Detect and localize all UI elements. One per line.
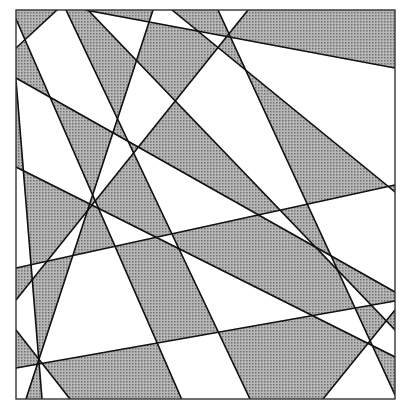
shaded-region xyxy=(138,101,280,215)
shaded-region xyxy=(16,40,50,98)
diagram-canvas xyxy=(0,0,415,418)
shaded-region xyxy=(16,10,57,40)
shaded-region xyxy=(66,10,137,119)
shaded-region xyxy=(355,305,386,341)
shaded-region xyxy=(246,70,389,204)
shaded-region xyxy=(137,22,218,101)
shaded-region xyxy=(229,10,395,68)
shaded-region xyxy=(16,330,39,368)
shaded-region xyxy=(50,97,113,195)
shaded-regions xyxy=(16,10,395,399)
shaded-region xyxy=(95,153,172,237)
line-arrangement-diagram xyxy=(0,0,415,418)
